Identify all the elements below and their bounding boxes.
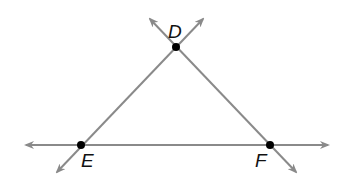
point-label-d: D [168,22,182,41]
point-label-e: E [81,151,94,170]
geometry-diagram: D E F [0,0,353,189]
point-d [172,43,180,51]
points-group [77,43,274,149]
point-label-f: F [255,151,267,170]
point-e [77,141,85,149]
point-f [266,141,274,149]
